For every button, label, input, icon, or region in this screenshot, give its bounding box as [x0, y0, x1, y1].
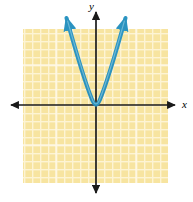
- parabola-graph-figure: [0, 0, 193, 202]
- x-axis-label: x: [182, 99, 187, 110]
- y-axis-label: y: [89, 1, 94, 12]
